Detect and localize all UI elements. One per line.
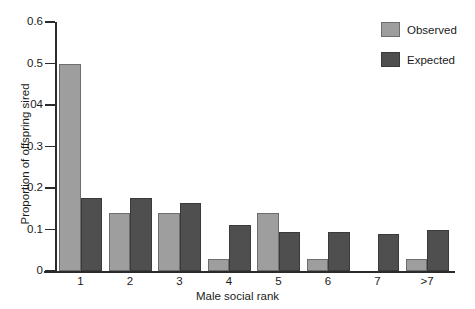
bar-expected-rank-6 <box>328 232 350 271</box>
legend-label-expected: Expected <box>407 54 455 66</box>
x-axis-tick-label: 6 <box>303 275 353 287</box>
x-axis-tick-label: 5 <box>254 275 304 287</box>
x-axis-title: Male social rank <box>0 290 475 302</box>
bar-observed-rank-2 <box>109 213 131 271</box>
bar-expected-rank-7 <box>378 234 400 271</box>
bar-expected-rank-3 <box>180 203 202 271</box>
legend-item-observed: Observed <box>381 19 475 40</box>
chart-legend: Observed Expected <box>381 19 475 79</box>
bar-observed-rank-1 <box>59 64 81 272</box>
bar-observed-rank->7 <box>406 259 428 271</box>
y-axis-tick-label: 04 <box>30 99 43 111</box>
y-axis-tick <box>45 104 55 106</box>
bar-expected-rank-5 <box>279 232 301 271</box>
y-axis-tick <box>45 63 55 65</box>
bar-observed-rank-6 <box>307 259 329 271</box>
legend-swatch-observed <box>381 22 400 37</box>
legend-item-expected: Expected <box>381 49 475 70</box>
bar-expected-rank-2 <box>130 198 152 271</box>
y-axis-tick-label: 0.5 <box>27 58 43 70</box>
x-axis-tick-label: 7 <box>353 275 403 287</box>
bar-observed-rank-3 <box>158 213 180 271</box>
y-axis-tick-label: 0 <box>37 265 43 277</box>
bar-observed-rank-5 <box>257 213 279 271</box>
x-axis-tick-label: 3 <box>155 275 205 287</box>
bar-expected-rank->7 <box>427 230 449 272</box>
x-axis-tick-label: 2 <box>105 275 155 287</box>
legend-swatch-expected <box>381 52 400 67</box>
x-axis-tick-label: 1 <box>56 275 106 287</box>
y-axis-tick-label: 0.2 <box>27 182 43 194</box>
x-axis-tick-label: >7 <box>402 275 452 287</box>
y-axis-tick <box>45 146 55 148</box>
y-axis-tick-label: 0.1 <box>27 224 43 236</box>
y-axis-tick <box>45 270 55 272</box>
bar-expected-rank-4 <box>229 225 251 271</box>
x-axis-tick-label: 4 <box>204 275 254 287</box>
y-axis-tick-label: 0.6 <box>27 16 43 28</box>
bar-observed-rank-4 <box>208 259 230 271</box>
y-axis-tick-labels: 0.60.5040.30.20.10 <box>0 0 43 309</box>
bar-expected-rank-1 <box>81 198 103 271</box>
y-axis-tick <box>45 21 55 23</box>
bar-chart: Proportion of offspring sired 0.60.5040.… <box>0 0 475 309</box>
legend-label-observed: Observed <box>407 24 457 36</box>
y-axis-tick-label: 0.3 <box>27 141 43 153</box>
y-axis-tick <box>45 187 55 189</box>
y-axis-tick <box>45 229 55 231</box>
